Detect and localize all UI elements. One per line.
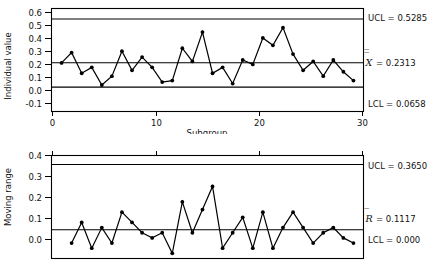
data-point: [261, 36, 265, 40]
data-point: [80, 71, 84, 75]
individuals-series-points: [60, 26, 356, 87]
control-limit-lines-moving-range: [52, 165, 364, 259]
data-point: [201, 30, 205, 34]
data-point: [120, 210, 124, 214]
y-tick-label: 0.4: [28, 151, 42, 161]
data-point: [60, 61, 64, 65]
x-tick-label: 0: [50, 118, 55, 128]
data-point: [221, 246, 225, 250]
data-point: [100, 83, 104, 87]
data-point: [70, 51, 74, 55]
control-chart-figure: Individual value 0.6 0.5 0.4 0.3 0.2 0.1…: [0, 0, 439, 268]
data-point: [331, 58, 335, 62]
individuals-series-line: [62, 28, 354, 85]
data-point: [251, 63, 255, 67]
data-point: [341, 70, 345, 74]
data-point: [170, 79, 174, 83]
y-tick-label: -0.1: [25, 99, 42, 109]
data-point: [191, 231, 195, 235]
data-point: [160, 231, 164, 235]
data-point: [150, 236, 154, 240]
limit-annotations-moving-range: UCL = 0.3650 ̅ R = 0.1117 LCL = 0.000: [364, 161, 427, 245]
y-tick-label: 0.3: [28, 47, 42, 57]
data-point: [311, 241, 315, 245]
data-point: [170, 251, 174, 255]
rbar-symbol: R: [364, 213, 372, 224]
y-axis-title-individuals: Individual value: [3, 32, 13, 99]
data-point: [191, 60, 195, 64]
y-tick-label: 0.5: [28, 21, 42, 31]
data-point: [251, 246, 255, 250]
x-tick-marks-moving-range: [53, 151, 363, 156]
moving-range-chart: Moving range 0.4 0.3 0.2 0.1 0.0: [0, 134, 439, 268]
data-point: [352, 79, 356, 83]
x-tick-marks-individuals: [53, 112, 363, 117]
data-point: [100, 226, 104, 230]
data-point: [130, 221, 134, 225]
centerline-label-individuals: ̅ ̅ X = 0.2313: [364, 49, 416, 68]
data-point: [271, 43, 275, 47]
y-axis-individuals: Individual value 0.6 0.5 0.4 0.3 0.2 0.1…: [3, 8, 51, 109]
data-point: [120, 49, 124, 53]
data-point: [180, 46, 184, 50]
data-point: [291, 210, 295, 214]
data-point: [281, 26, 285, 30]
data-point: [231, 231, 235, 235]
data-point: [110, 74, 114, 78]
plot-frame-individuals: [52, 9, 364, 112]
data-point: [90, 65, 94, 69]
moving-range-chart-svg: Moving range 0.4 0.3 0.2 0.1 0.0: [0, 134, 439, 268]
lcl-label-individuals: LCL = 0.0658: [368, 99, 426, 109]
data-point: [201, 208, 205, 212]
single-bar-overline-icon: ̅: [364, 208, 369, 209]
y-axis-title-moving-range: Moving range: [3, 168, 13, 226]
y-tick-marks-individuals: [45, 13, 51, 104]
data-point: [231, 82, 235, 86]
data-point: [341, 236, 345, 240]
lcl-label-moving-range: LCL = 0.000: [368, 235, 420, 245]
y-tick-label: 0.0: [28, 235, 42, 245]
y-axis-moving-range: Moving range 0.4 0.3 0.2 0.1 0.0: [3, 151, 51, 245]
individuals-chart-svg: Individual value 0.6 0.5 0.4 0.3 0.2 0.1…: [0, 0, 439, 134]
y-tick-label: 0.2: [28, 60, 42, 70]
double-bar-overline-icon: ̅: [364, 52, 369, 53]
y-tick-labels-moving-range: 0.4 0.3 0.2 0.1 0.0: [28, 151, 42, 245]
data-point: [140, 55, 144, 59]
double-bar-overline-icon: ̅: [364, 49, 369, 50]
y-tick-label: 0.4: [28, 34, 42, 44]
y-tick-label: 0.6: [28, 8, 42, 18]
y-tick-label: 0.1: [28, 214, 42, 224]
data-point: [160, 80, 164, 84]
data-point: [261, 210, 265, 214]
x-tick-label: 10: [151, 118, 162, 128]
ucl-label-individuals: UCL = 0.5285: [368, 13, 427, 23]
data-point: [271, 246, 275, 250]
plot-frame-moving-range: [52, 156, 364, 259]
data-point: [291, 52, 295, 56]
data-point: [321, 231, 325, 235]
centerline-value-moving-range: = 0.1117: [376, 214, 416, 224]
y-tick-label: 0.1: [28, 73, 42, 83]
y-tick-labels-individuals: 0.6 0.5 0.4 0.3 0.2 0.1 0.0 -0.1: [25, 8, 42, 109]
data-point: [180, 200, 184, 204]
data-point: [130, 68, 134, 72]
data-point: [211, 185, 215, 189]
data-point: [70, 241, 74, 245]
data-point: [80, 221, 84, 225]
data-point: [241, 58, 245, 62]
individuals-chart: Individual value 0.6 0.5 0.4 0.3 0.2 0.1…: [0, 0, 439, 134]
data-point: [211, 71, 215, 75]
centerline-label-moving-range: ̅ R = 0.1117: [364, 208, 416, 224]
data-point: [241, 215, 245, 219]
x-tick-label: 20: [254, 118, 265, 128]
centerline-value-individuals: = 0.2313: [376, 58, 416, 68]
x-tick-label: 30: [357, 118, 368, 128]
data-point: [281, 226, 285, 230]
data-point: [90, 246, 94, 250]
data-point: [352, 241, 356, 245]
moving-range-series-points: [70, 185, 356, 256]
ucl-label-moving-range: UCL = 0.3650: [368, 161, 427, 171]
data-point: [110, 241, 114, 245]
data-point: [140, 231, 144, 235]
data-point: [331, 226, 335, 230]
